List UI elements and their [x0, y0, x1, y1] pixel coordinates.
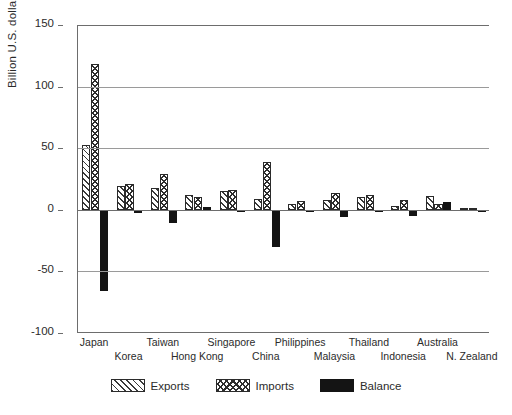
y-axis-tick-neg100: -100 — [8, 326, 54, 338]
x-axis-label-group: JapanKoreaTaiwanHong KongSingaporeChinaP… — [77, 336, 489, 372]
y-tick-mark — [58, 148, 63, 149]
bar-balance-taiwan — [169, 210, 177, 224]
bar-exports-taiwan — [151, 188, 159, 210]
imports-swatch-icon — [216, 379, 250, 392]
gridline-150 — [78, 25, 489, 26]
legend-label-imports: Imports — [256, 380, 294, 392]
y-axis-tick-0: 0 — [8, 203, 54, 215]
bar-imports-taiwan — [160, 174, 168, 210]
bar-exports-korea — [117, 186, 125, 209]
balance-swatch-icon — [320, 379, 354, 392]
bar-balance-malaysia — [340, 210, 348, 217]
x-axis-label-taiwan: Taiwan — [146, 336, 179, 348]
y-tick-mark — [58, 87, 63, 88]
y-tick-mark — [58, 210, 63, 211]
legend-item-exports: Exports — [111, 379, 190, 392]
bar-imports-hong-kong — [194, 197, 202, 209]
plot-area — [77, 25, 489, 333]
bar-exports-japan — [82, 145, 90, 210]
y-axis-tick-50: 50 — [8, 141, 54, 153]
bar-imports-singapore — [228, 190, 236, 210]
bar-imports-malaysia — [331, 193, 339, 210]
bar-imports-indonesia — [400, 200, 408, 210]
y-axis-tick-neg50: -50 — [8, 264, 54, 276]
bar-chart: Billion U.S. dollars 150100500-50-100 Ja… — [0, 0, 512, 415]
legend-item-balance: Balance — [320, 379, 402, 392]
bar-balance-japan — [100, 210, 108, 291]
gridline-0 — [78, 210, 489, 211]
legend-label-balance: Balance — [360, 380, 402, 392]
x-axis-label-malaysia: Malaysia — [314, 350, 355, 362]
y-axis-tick-100: 100 — [8, 80, 54, 92]
gridline-50 — [78, 148, 489, 149]
exports-swatch-icon — [111, 379, 145, 392]
bar-imports-china — [263, 162, 271, 210]
legend-label-exports: Exports — [151, 380, 190, 392]
x-axis-label-indonesia: Indonesia — [380, 350, 426, 362]
bar-balance-australia — [443, 202, 451, 209]
gridline-100 — [78, 87, 489, 88]
x-axis-label-n-zealand: N. Zealand — [446, 350, 497, 362]
y-tick-mark — [58, 271, 63, 272]
bar-exports-china — [254, 199, 262, 210]
x-axis-label-china: China — [252, 350, 279, 362]
bar-balance-china — [272, 210, 280, 247]
bar-exports-singapore — [220, 191, 228, 209]
y-axis-tick-group: 150100500-50-100 — [8, 0, 54, 415]
x-axis-label-hong-kong: Hong Kong — [171, 350, 224, 362]
bar-imports-thailand — [366, 195, 374, 210]
bar-imports-philippines — [297, 201, 305, 210]
bar-exports-thailand — [357, 197, 365, 209]
x-axis-label-korea: Korea — [114, 350, 142, 362]
chart-legend: Exports Imports Balance — [0, 379, 512, 392]
bar-imports-korea — [125, 184, 133, 210]
y-axis-tick-150: 150 — [8, 18, 54, 30]
x-axis-label-thailand: Thailand — [349, 336, 389, 348]
bar-exports-australia — [426, 196, 434, 210]
x-axis-label-australia: Australia — [417, 336, 458, 348]
bars-layer — [78, 25, 489, 332]
gridline--50 — [78, 271, 489, 272]
x-axis-label-singapore: Singapore — [208, 336, 256, 348]
y-tick-mark — [58, 25, 63, 26]
bar-exports-malaysia — [323, 200, 331, 210]
bar-exports-hong-kong — [185, 195, 193, 210]
x-axis-label-philippines: Philippines — [275, 336, 326, 348]
legend-item-imports: Imports — [216, 379, 294, 392]
x-axis-label-japan: Japan — [80, 336, 109, 348]
y-tick-mark — [58, 333, 63, 334]
